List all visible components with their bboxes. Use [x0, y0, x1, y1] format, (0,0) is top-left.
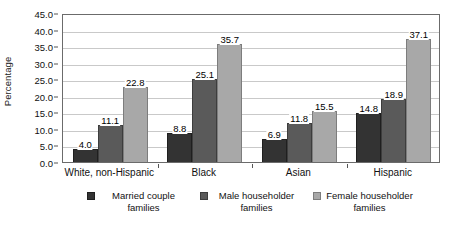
y-axis-tick-mark — [54, 63, 58, 64]
gridline — [63, 48, 439, 49]
y-axis-tick-label: 10.0 — [35, 124, 54, 135]
y-axis-tick-mark — [54, 129, 58, 130]
y-axis-tick-mark — [54, 30, 58, 31]
bar-value-label: 11.8 — [289, 113, 309, 124]
y-axis-tick-label: 45.0 — [35, 9, 54, 20]
bar — [167, 133, 192, 162]
gridline — [63, 32, 439, 33]
y-axis-title-text: Percentage — [3, 57, 14, 107]
bar-value-label: 11.1 — [100, 115, 120, 126]
y-axis-tick-label: 40.0 — [35, 25, 54, 36]
bar-value-label: 18.9 — [384, 89, 405, 100]
bar-value-label: 22.8 — [125, 77, 146, 88]
x-axis-label: Black — [192, 167, 216, 178]
y-axis-tick-mark — [54, 96, 58, 97]
bar-value-label: 35.7 — [220, 34, 241, 45]
bar-value-label: 6.9 — [267, 129, 282, 140]
bar — [406, 39, 431, 162]
bar — [262, 139, 287, 162]
legend-label: Male householder families — [211, 190, 303, 213]
y-axis-tick-mark — [54, 113, 58, 114]
y-axis-tick-label: 5.0 — [40, 141, 53, 152]
bar — [98, 125, 123, 162]
x-axis-label: Hispanic — [374, 167, 412, 178]
bar-value-label: 4.0 — [78, 139, 93, 150]
bar-chart: Percentage 0.05.010.015.020.025.030.035.… — [0, 0, 452, 230]
legend-item[interactable]: Married couple families — [87, 190, 190, 213]
plot-area: 4.011.122.88.825.135.76.911.815.514.818.… — [62, 14, 440, 163]
bar — [73, 149, 98, 162]
y-axis-tick-mark — [54, 80, 58, 81]
bar-value-label: 25.1 — [195, 69, 216, 80]
x-axis-labels: White, non-HispanicBlackAsianHispanic — [62, 167, 440, 183]
bar — [287, 123, 312, 162]
gridline — [63, 81, 439, 82]
legend-swatch-icon — [87, 192, 95, 200]
legend-swatch-icon — [200, 192, 208, 200]
y-axis-tick-label: 15.0 — [35, 108, 54, 119]
bar-value-label: 14.8 — [359, 103, 380, 114]
gridline — [63, 65, 439, 66]
bar — [381, 99, 406, 162]
bar-value-label: 37.1 — [409, 29, 430, 40]
y-axis-tick-label: 25.0 — [35, 75, 54, 86]
bar-value-label: 8.8 — [172, 123, 187, 134]
y-axis-tick-mark — [54, 163, 58, 164]
y-axis-tick-label: 0.0 — [40, 158, 53, 169]
y-axis-title: Percentage — [0, 0, 16, 163]
bar — [192, 79, 217, 162]
y-axis-tick-labels: 0.05.010.015.020.025.030.035.040.045.0 — [16, 0, 58, 180]
legend-label: Female householder families — [324, 190, 416, 213]
y-axis-tick-label: 20.0 — [35, 91, 54, 102]
y-axis-tick-mark — [54, 146, 58, 147]
chart-legend: Married couple familiesMale householder … — [62, 190, 440, 224]
x-axis-label: Asian — [286, 167, 311, 178]
legend-swatch-icon — [313, 192, 321, 200]
y-axis-tick-label: 35.0 — [35, 42, 54, 53]
bar — [312, 111, 337, 162]
y-axis-tick-mark — [54, 47, 58, 48]
bar-value-label: 15.5 — [314, 101, 335, 112]
bar — [356, 113, 381, 162]
legend-item[interactable]: Female householder families — [313, 190, 416, 213]
bar — [217, 44, 242, 162]
y-axis-tick-mark — [54, 14, 58, 15]
legend-label: Married couple families — [98, 190, 190, 213]
legend-item[interactable]: Male householder families — [200, 190, 303, 213]
x-axis-label: White, non-Hispanic — [65, 167, 154, 178]
y-axis-tick-label: 30.0 — [35, 58, 54, 69]
bar — [123, 87, 148, 162]
